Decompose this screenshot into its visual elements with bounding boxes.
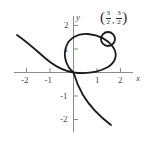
y-tick-label--1: -1 [60, 92, 68, 101]
x-tick-label--1: -1 [45, 76, 53, 85]
fraction-y-denominator: 2 [116, 19, 122, 26]
fraction-x: 3 2 [106, 10, 112, 26]
comma-separator: , [112, 16, 114, 25]
curve-loop [65, 34, 116, 73]
close-paren: ) [122, 10, 127, 25]
x-tick-label--2: -2 [21, 76, 29, 85]
y-tick-label-1: 1 [64, 45, 69, 54]
open-paren: ( [100, 10, 105, 25]
fraction-y-numerator: 3 [116, 10, 122, 17]
x-tick-label-2: 2 [118, 76, 123, 85]
fraction-x-denominator: 2 [106, 19, 112, 26]
y-tick-label-2: 2 [64, 21, 69, 30]
x-tick-label-1: 1 [95, 76, 100, 85]
fraction-y: 3 2 [116, 10, 122, 26]
x-axis-label: x [136, 74, 140, 83]
y-axis-label: y [76, 13, 80, 22]
curve-lower-right-branch [74, 73, 112, 126]
folium-of-descartes-figure: -2 -1 1 2 2 1 -1 -2 x y ( 3 2 , 3 2 ) [0, 0, 151, 144]
fraction-x-numerator: 3 [106, 10, 112, 17]
y-tick-label--2: -2 [60, 115, 68, 124]
point-annotation-label: ( 3 2 , 3 2 ) [100, 10, 127, 26]
